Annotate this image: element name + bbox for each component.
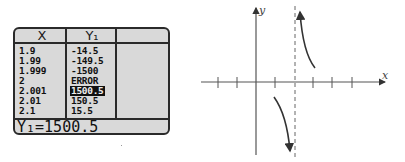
table-header-row: X Y₁	[15, 29, 168, 44]
speck	[121, 145, 122, 146]
column-divider	[65, 29, 67, 118]
x-axis	[201, 77, 385, 88]
calculator-table-screen: X Y₁ 1.9 -14.5 1.99 -149.5 1.999 -1500 2…	[13, 27, 170, 135]
status-line: Y₁=1500.5	[17, 120, 98, 135]
header-y1: Y₁	[69, 28, 115, 43]
y-axis-label: y	[258, 4, 266, 17]
rational-function-graph: x y	[195, 0, 405, 162]
header-x: X	[19, 28, 65, 43]
x-axis-label: x	[382, 69, 389, 82]
left-branch-curve	[274, 97, 290, 151]
right-branch-curve	[300, 12, 315, 68]
cell-x: 2.1	[19, 106, 35, 116]
column-divider	[115, 29, 117, 118]
cell-y: 15.5	[71, 106, 93, 116]
